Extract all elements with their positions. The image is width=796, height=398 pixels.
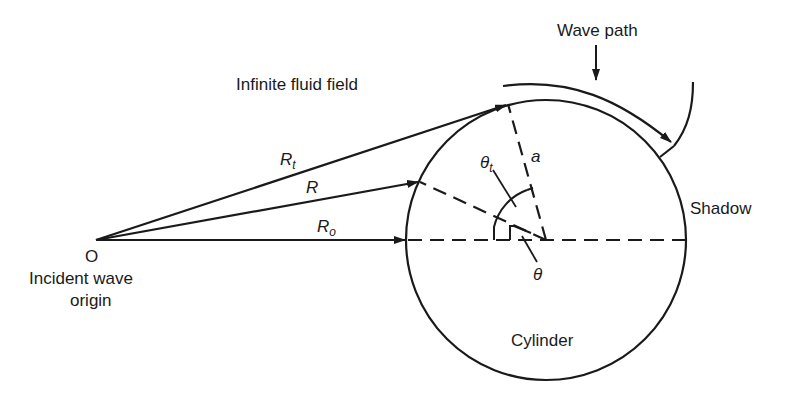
wave-path-connector bbox=[660, 146, 674, 157]
cylinder-label: Cylinder bbox=[511, 331, 574, 350]
fluid-field-label: Infinite fluid field bbox=[236, 75, 358, 94]
origin-label-line2: origin bbox=[70, 291, 112, 310]
diffracted-wave-curve bbox=[674, 82, 693, 146]
radius-a-label: a bbox=[531, 147, 540, 166]
theta-t-sub: t bbox=[489, 161, 493, 175]
theta-label: θ bbox=[533, 265, 543, 284]
ray-r bbox=[96, 182, 418, 240]
origin-point-label: O bbox=[85, 247, 98, 266]
diagram-canvas: Wave path Infinite fluid field Shadow Cy… bbox=[0, 0, 796, 398]
wave-path-arc bbox=[503, 84, 671, 142]
ro-sub: o bbox=[329, 225, 336, 239]
theta-t-label: θt bbox=[480, 153, 493, 175]
theta-t-leader bbox=[493, 170, 516, 207]
radius-a-dashed bbox=[508, 104, 546, 240]
ro-label: Ro bbox=[317, 217, 336, 239]
theta-arc bbox=[510, 226, 531, 240]
shadow-label: Shadow bbox=[690, 199, 752, 218]
rt-sub: t bbox=[292, 158, 296, 172]
rt-main: R bbox=[280, 150, 292, 169]
ro-main: R bbox=[317, 217, 329, 236]
origin-label-line1: Incident wave bbox=[29, 269, 133, 288]
r-label: R bbox=[306, 178, 318, 197]
rt-label: Rt bbox=[280, 150, 296, 172]
wave-path-label: Wave path bbox=[557, 21, 638, 40]
ray-rt bbox=[96, 105, 506, 240]
